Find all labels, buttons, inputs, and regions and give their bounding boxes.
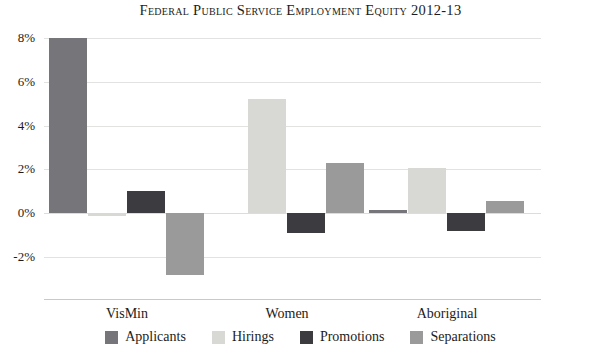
gridline-6 <box>44 82 541 83</box>
plot-area <box>44 38 541 300</box>
legend-item-applicants[interactable]: Applicants <box>105 329 186 345</box>
bar-vismin-separations[interactable] <box>166 213 204 274</box>
bar-women-separations[interactable] <box>326 163 364 213</box>
gridline-neg2 <box>44 257 541 258</box>
x-axis-line <box>44 299 541 300</box>
legend-item-hirings[interactable]: Hirings <box>212 329 274 345</box>
legend-swatch-icon <box>410 331 423 344</box>
bar-vismin-applicants[interactable] <box>49 38 87 213</box>
legend-swatch-icon <box>212 331 225 344</box>
category-label-women: Women <box>265 306 308 322</box>
legend-swatch-icon <box>300 331 313 344</box>
legend-label: Promotions <box>320 329 385 345</box>
legend-label: Hirings <box>232 329 274 345</box>
bar-vismin-promotions[interactable] <box>127 191 165 213</box>
bar-aboriginal-hirings[interactable] <box>408 168 446 213</box>
bar-women-hirings[interactable] <box>248 99 286 213</box>
gridline-2 <box>44 169 541 170</box>
y-tick-label: 4% <box>0 118 35 134</box>
gridline-8 <box>44 38 541 39</box>
chart-legend: ApplicantsHiringsPromotionsSeparations <box>0 329 601 345</box>
y-tick-label: 6% <box>0 74 35 90</box>
bar-aboriginal-separations[interactable] <box>486 201 524 213</box>
bar-vismin-hirings[interactable] <box>88 213 126 216</box>
legend-swatch-icon <box>105 331 118 344</box>
legend-label: Applicants <box>125 329 186 345</box>
bar-aboriginal-applicants[interactable] <box>369 210 407 213</box>
y-tick-label: -2% <box>0 249 35 265</box>
bar-aboriginal-promotions[interactable] <box>447 213 485 231</box>
legend-item-separations[interactable]: Separations <box>410 329 495 345</box>
bar-women-promotions[interactable] <box>287 213 325 233</box>
y-tick-label: 0% <box>0 205 35 221</box>
page-title: Federal Public Service Employment Equity… <box>0 2 601 19</box>
y-tick-label: 8% <box>0 30 35 46</box>
y-tick-label: 2% <box>0 161 35 177</box>
legend-label: Separations <box>430 329 495 345</box>
category-label-aboriginal: Aboriginal <box>417 306 478 322</box>
category-label-vismin: VisMin <box>106 306 148 322</box>
gridline-4 <box>44 126 541 127</box>
legend-item-promotions[interactable]: Promotions <box>300 329 385 345</box>
